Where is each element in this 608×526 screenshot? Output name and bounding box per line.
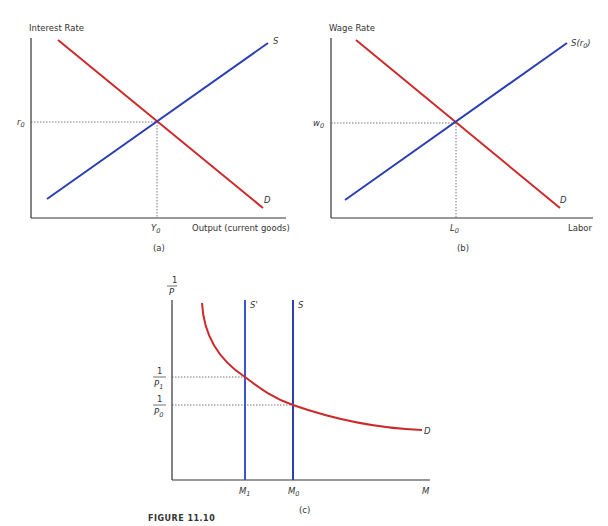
panel-c-x-axis-title: M (422, 486, 430, 496)
panel-a-y-axis-title: Interest Rate (29, 23, 84, 33)
panel-c-p0-num: 1 (157, 394, 162, 404)
figure-caption: FIGURE 11.10 (148, 514, 215, 523)
panel-a-supply-label: S (273, 36, 279, 46)
panel-a-demand-curve (58, 40, 263, 208)
panel-c-p1-num: 1 (157, 366, 162, 376)
panel-c-m0-label: M0 (288, 486, 299, 498)
panel-b-supply-curve (345, 43, 567, 200)
panel-a-y0-label: Y0 (151, 223, 160, 235)
panel-a: Interest Rate S D r0 Y0 Output (current … (17, 23, 290, 253)
panel-c-p1-den: P1 (154, 379, 163, 391)
panel-a-r0-label: r0 (17, 117, 25, 129)
panel-c-d-label: D (424, 426, 431, 436)
panel-c-p0-den: P0 (154, 407, 163, 419)
panel-b-demand-curve (356, 40, 560, 208)
panel-c-s-prime-label: S' (250, 300, 258, 310)
panel-c-s-label: S (298, 300, 304, 310)
panel-a-label: (a) (153, 243, 165, 253)
panel-b-supply-label: S(r0) (571, 38, 591, 50)
panel-b: Wage Rate S(r0) D w0 L0 Labor (b) (313, 23, 593, 253)
figure-canvas: Interest Rate S D r0 Y0 Output (current … (0, 0, 608, 526)
panel-c-y-axis-num: 1 (172, 275, 177, 285)
panel-b-l0-label: L0 (450, 223, 459, 235)
panel-b-x-axis-title: Labor (568, 223, 593, 233)
panel-a-x-axis-title: Output (current goods) (192, 223, 290, 233)
panel-a-supply-curve (47, 43, 268, 199)
panel-b-demand-label: D (560, 195, 567, 205)
panel-c-m1-label: M1 (239, 486, 250, 498)
panel-b-label: (b) (457, 243, 469, 253)
panel-c: 1 P S' S D 1 P1 1 P0 M1 M0 M (c) (153, 275, 431, 515)
panel-a-demand-label: D (264, 195, 271, 205)
panel-c-demand-curve (202, 303, 422, 430)
panel-c-y-axis-den: P (169, 287, 175, 297)
panel-b-y-axis-title: Wage Rate (329, 23, 375, 33)
panel-c-label: (c) (299, 505, 310, 515)
panel-b-w0-label: w0 (313, 118, 324, 130)
